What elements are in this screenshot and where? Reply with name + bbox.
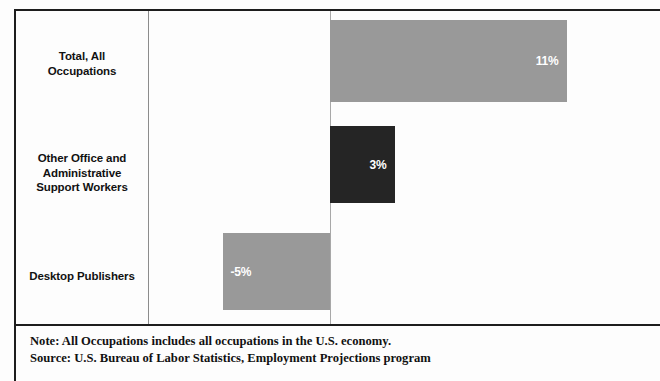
category-label-desktop-publishers: Desktop Publishers bbox=[16, 269, 148, 284]
category-label-line: Total, All bbox=[16, 49, 148, 64]
label-column-divider bbox=[148, 11, 149, 324]
frame-middle-rule bbox=[14, 324, 660, 326]
footnote-note: Note: All Occupations includes all occup… bbox=[30, 333, 650, 350]
category-label-line: Administrative bbox=[16, 166, 148, 181]
footnote-block: Note: All Occupations includes all occup… bbox=[30, 333, 650, 367]
category-label-total-all-occupations: Total, All Occupations bbox=[16, 49, 148, 78]
category-label-line: Occupations bbox=[16, 64, 148, 79]
chart-figure: Total, All Occupations Other Office and … bbox=[0, 0, 660, 381]
bar-value-label: -5% bbox=[231, 265, 252, 279]
bar-other-office-and-administrative-support-workers: 3% bbox=[330, 126, 395, 203]
bar-desktop-publishers: -5% bbox=[223, 233, 331, 310]
bar-value-label: 3% bbox=[370, 158, 387, 172]
category-label-line: Support Workers bbox=[16, 180, 148, 195]
bar-total-all-occupations: 11% bbox=[330, 20, 567, 102]
category-label-column: Total, All Occupations Other Office and … bbox=[16, 11, 148, 324]
footnote-source: Source: U.S. Bureau of Labor Statistics,… bbox=[30, 350, 650, 367]
bar-value-label: 11% bbox=[536, 54, 559, 68]
category-label-line: Desktop Publishers bbox=[16, 269, 148, 284]
category-label-other-office-and-administrative-support-workers: Other Office and Administrative Support … bbox=[16, 151, 148, 195]
plot-area: Total, All Occupations Other Office and … bbox=[16, 11, 660, 324]
category-label-line: Other Office and bbox=[16, 151, 148, 166]
